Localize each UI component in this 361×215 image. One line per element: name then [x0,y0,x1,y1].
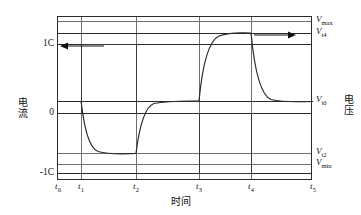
x-tick-t0-sub: 0 [58,186,61,193]
right-arrow-icon [254,32,296,39]
y-left-tick-minus1c: -1C [40,168,54,178]
x-tick-t2-sub: 2 [136,186,139,193]
y-axis-title-left: 电流 [14,97,29,119]
x-tick-t2: t2 [133,182,139,193]
x-tick-t4-sub: 4 [251,186,254,193]
x-axis-title: 时间 [0,193,361,208]
plot-area: 1C 0 -1C Vmax Vt4 Vt0 Vt2 Vmin t0 t1 t2 … [57,16,312,180]
y-axis-title-right: 电压 [340,94,355,116]
y-right-tick-vmin: Vmin [316,158,332,169]
y-right-tick-vt4: Vt4 [316,27,327,38]
x-tick-t3-sub: 3 [199,186,202,193]
x-tick-t1-sub: 1 [81,186,84,193]
chart-figure: 1C 0 -1C Vmax Vt4 Vt0 Vt2 Vmin t0 t1 t2 … [0,0,361,215]
annotation-arrow-group [58,17,313,181]
x-tick-t1: t1 [78,182,84,193]
x-tick-t3: t3 [196,182,202,193]
y-right-tick-vmax-sub: max [322,19,333,26]
x-tick-t0: t0 [55,182,61,193]
x-tick-t5: t5 [310,182,316,193]
y-right-tick-vt0: Vt0 [316,95,327,106]
x-tick-t4: t4 [248,182,254,193]
y-right-tick-vt4-sub: t4 [322,31,327,38]
left-arrow-icon [60,43,104,50]
x-tick-t5-sub: 5 [313,186,316,193]
y-right-tick-vmin-sub: min [322,162,332,169]
y-right-tick-vmax: Vmax [316,15,333,26]
y-left-tick-1c: 1C [43,39,54,49]
y-right-tick-vt0-sub: t0 [322,99,327,106]
y-left-tick-0: 0 [49,108,54,118]
y-right-tick-vt2-sub: t2 [322,151,327,158]
